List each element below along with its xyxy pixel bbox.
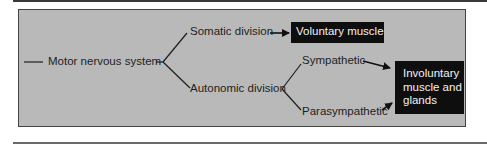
sympathetic-arrow — [363, 61, 390, 68]
voluntary-muscle-box: Voluntary muscle — [291, 22, 384, 43]
fork-somatic-line — [163, 33, 187, 62]
parasympathetic-label: Parasympathetic — [302, 105, 388, 118]
involuntary-line-3: glands — [403, 94, 464, 108]
sympathetic-label: Sympathetic — [302, 54, 365, 67]
autonomic-division-label: Autonomic division — [190, 82, 286, 95]
involuntary-line-2: muscle and — [403, 81, 464, 95]
involuntary-muscle-box: Involuntary muscle and glands — [395, 61, 464, 114]
voluntary-muscle-label: Voluntary muscle — [296, 25, 384, 37]
involuntary-line-1: Involuntary — [403, 67, 464, 81]
fork-autonomic-line — [163, 62, 190, 88]
somatic-division-label: Somatic division — [190, 25, 273, 38]
bottom-rule — [13, 142, 487, 144]
root-label: Motor nervous system — [48, 55, 161, 68]
